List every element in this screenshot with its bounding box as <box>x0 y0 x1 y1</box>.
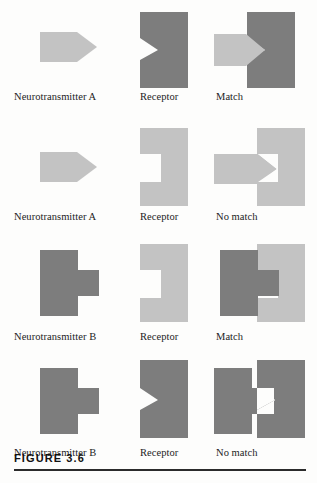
receptor-square-notch-shape <box>140 244 202 330</box>
neurotransmitter-a-cell: Neurotransmitter A <box>14 4 132 124</box>
figure-3-6: Neurotransmitter A Receptor Match <box>0 0 317 483</box>
figure-row: Neurotransmitter A Receptor No match <box>0 124 317 244</box>
cell-label: Receptor <box>140 90 202 104</box>
cell-label: Receptor <box>140 330 202 344</box>
neurotransmitter-a-cell: Neurotransmitter A <box>14 124 132 244</box>
receptor-v-notch-shape <box>140 360 202 446</box>
match-arrow-in-receptor-shape <box>214 4 314 90</box>
figure-number-label: FIGURE 3.6 <box>14 452 306 465</box>
receptor-square-notch-shape <box>140 124 202 210</box>
figure-row: Neurotransmitter A Receptor Match <box>0 4 317 124</box>
no-match-tee-vs-v-notch-shape <box>214 360 314 446</box>
figure-caption-block: FIGURE 3.6 <box>14 452 306 471</box>
cell-label: No match <box>216 210 316 224</box>
neurotransmitter-b-cell: Neurotransmitter B <box>14 244 132 364</box>
neurotransmitter-a-shape <box>14 4 132 90</box>
neurotransmitter-a-shape <box>14 124 132 210</box>
match-cell: Match <box>214 4 314 124</box>
receptor-cell: Receptor <box>140 124 202 244</box>
cell-label: Neurotransmitter A <box>14 90 132 104</box>
receptor-cell: Receptor <box>140 4 202 124</box>
match-tee-in-receptor-shape <box>214 244 314 330</box>
cell-label: Neurotransmitter A <box>14 210 132 224</box>
caption-divider <box>14 469 306 471</box>
receptor-cell: Receptor <box>140 244 202 364</box>
no-match-arrow-vs-square-notch-shape <box>214 124 314 210</box>
cell-label: Neurotransmitter B <box>14 330 132 344</box>
cell-label: Match <box>216 330 316 344</box>
figure-row: Neurotransmitter B Receptor Match <box>0 244 317 364</box>
neurotransmitter-b-shape <box>14 244 132 330</box>
match-cell: Match <box>214 244 314 364</box>
neurotransmitter-b-shape <box>14 360 132 446</box>
no-match-cell: No match <box>214 124 314 244</box>
cell-label: Match <box>216 90 316 104</box>
cell-label: Receptor <box>140 210 202 224</box>
receptor-v-notch-shape <box>140 4 202 90</box>
